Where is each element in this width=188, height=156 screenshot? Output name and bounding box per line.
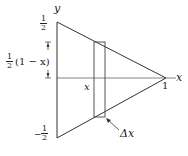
- width-pointer-line: [108, 120, 119, 130]
- delta-x-label: Δx: [120, 128, 134, 139]
- arrow-down-icon: [47, 73, 50, 77]
- y-axis-label: y: [54, 3, 60, 14]
- x-axis-label: x: [176, 72, 182, 83]
- diagram-graphics: [0, 0, 188, 156]
- triangle-slice-diagram: y x 1 2 − 1 2 1 1 2 (1 − x) x Δx: [0, 0, 188, 156]
- top-tick-label: 1 2: [40, 15, 47, 32]
- height-coef: 1 2: [6, 53, 13, 70]
- slice-x-label: x: [84, 82, 90, 92]
- slice-rectangle: [94, 42, 105, 117]
- height-expression: (1 − x): [15, 57, 50, 67]
- right-tick-label: 1: [162, 81, 168, 91]
- triangle: [57, 22, 166, 138]
- bottom-tick-label: 1 2: [41, 125, 48, 142]
- arrow-up-icon: [47, 43, 50, 47]
